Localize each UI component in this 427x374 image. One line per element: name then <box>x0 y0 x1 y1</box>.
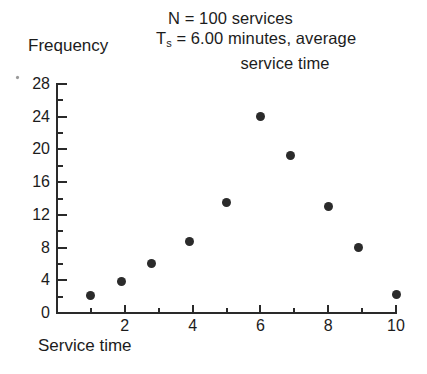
y-tick-label: 20 <box>18 140 50 156</box>
y-tick-label: 16 <box>18 173 50 189</box>
x-tick-minor <box>90 308 92 313</box>
data-point <box>117 277 126 286</box>
y-tick-major <box>58 83 67 85</box>
y-tick-label-text: 24 <box>20 108 50 126</box>
y-tick-label-text: 20 <box>20 140 50 158</box>
x-tick-minor <box>158 308 160 313</box>
y-tick-major <box>58 312 67 314</box>
x-tick-label: 10 <box>379 317 413 335</box>
y-tick-label: 24 <box>18 108 50 124</box>
data-point <box>392 290 401 299</box>
frequency-scatter-figure: N = 100 services Ts = 6.00 minutes, aver… <box>0 0 427 374</box>
y-tick-label-text: 4 <box>20 271 50 289</box>
x-tick-major <box>395 305 397 314</box>
x-tick-minor <box>293 308 295 313</box>
data-point <box>86 291 95 300</box>
x-tick-major <box>192 305 194 314</box>
data-point <box>354 243 363 252</box>
y-tick-label-text: 16 <box>20 173 50 191</box>
y-tick-label-text: 0 <box>20 304 50 322</box>
y-tick-major <box>58 181 67 183</box>
y-tick-label: 4 <box>18 271 50 287</box>
plot-area: 0481216202428246810 <box>0 0 427 374</box>
x-tick-label: 4 <box>176 317 210 335</box>
x-tick-major <box>327 305 329 314</box>
y-tick-label: 12 <box>18 206 50 222</box>
y-tick-minor <box>58 165 63 167</box>
y-tick-minor <box>58 132 63 134</box>
y-tick-minor <box>58 296 63 298</box>
data-point <box>222 198 231 207</box>
data-point <box>185 237 194 246</box>
y-tick-major <box>58 116 67 118</box>
data-point <box>286 151 295 160</box>
y-tick-minor <box>58 198 63 200</box>
y-tick-minor <box>58 263 63 265</box>
x-tick-minor <box>361 308 363 313</box>
data-point <box>256 112 265 121</box>
x-tick-label: 6 <box>243 317 277 335</box>
x-tick-major <box>259 305 261 314</box>
y-tick-minor <box>58 230 63 232</box>
y-tick-label: 0 <box>18 304 50 320</box>
y-tick-label-text: 8 <box>20 239 50 257</box>
x-tick-major <box>124 305 126 314</box>
y-tick-label-text: 12 <box>20 206 50 224</box>
y-tick-major <box>58 148 67 150</box>
y-tick-major <box>58 279 67 281</box>
y-tick-label-text: 28 <box>20 75 50 93</box>
data-point <box>147 259 156 268</box>
y-tick-major <box>58 247 67 249</box>
y-tick-label: 28 <box>18 75 50 91</box>
x-tick-label: 8 <box>311 317 345 335</box>
y-tick-minor <box>58 99 63 101</box>
y-tick-major <box>58 214 67 216</box>
data-point <box>324 202 333 211</box>
x-tick-label: 2 <box>108 317 142 335</box>
x-tick-minor <box>226 308 228 313</box>
y-tick-label: 8 <box>18 239 50 255</box>
